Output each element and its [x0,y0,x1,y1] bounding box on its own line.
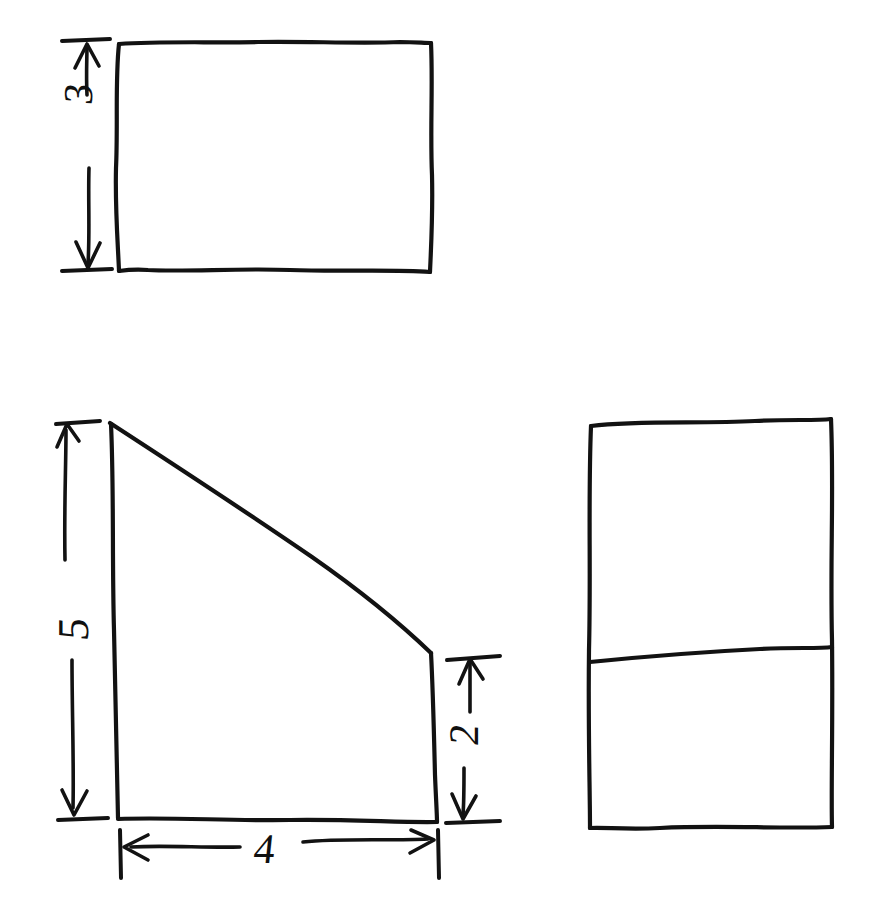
dimension-label-2: 2 [443,724,485,745]
figure-trapezoid [110,423,437,822]
drawing-canvas: 3 5 2 4 [0,0,889,902]
extension-tick-top-2 [447,656,500,660]
dimension-label-4-text: 4 [252,828,277,870]
ink-layer [0,0,889,902]
dimension-label-5-text: 5 [52,616,96,643]
trapezoid-slant-edge [110,423,431,653]
trapezoid-bottom-edge [118,818,437,822]
dimension-arrow-width-4 [120,830,439,878]
arrow-shaft-right-4 [303,839,428,842]
arrow-shaft-down-2 [463,768,464,814]
arrow-shaft-up-5 [65,430,66,560]
divided-rect-bottom-edge [590,827,832,829]
arrow-shaft-left-4 [131,846,240,847]
extension-tick-left-4 [120,830,121,878]
divided-rect-left-edge [589,426,591,828]
dimension-label-4: 4 [254,828,275,870]
extension-tick-bottom-5 [58,818,108,820]
trapezoid-right-edge [431,653,437,822]
divided-rect-divider-line [590,647,832,662]
divided-rect-top-edge [591,419,831,426]
dimension-label-5: 5 [52,618,96,640]
dimension-label-3-text: 3 [58,81,99,106]
arrow-shaft-down [88,168,89,264]
arrow-shaft-down-5 [72,660,73,808]
arrowhead-up-5 [57,424,79,447]
rect-top-edge [119,42,431,44]
dimension-label-3: 3 [58,84,99,105]
extension-tick-bottom-2 [446,821,500,823]
trapezoid-left-edge [111,424,118,818]
rect-bottom-edge [119,269,430,272]
dimension-arrow-height-3 [62,39,112,271]
rect-left-edge [116,44,119,271]
dimension-label-2-text: 2 [443,722,485,747]
extension-tick-top-5 [56,421,100,424]
divided-rect-right-edge [831,419,832,827]
figure-rectangle-divided [589,419,833,829]
figure-rectangle-top-left [116,42,432,272]
extension-tick-right-4 [438,830,439,878]
rect-right-edge [430,43,432,272]
arrowhead-right-4 [410,830,434,853]
extension-tick-top [62,39,110,41]
